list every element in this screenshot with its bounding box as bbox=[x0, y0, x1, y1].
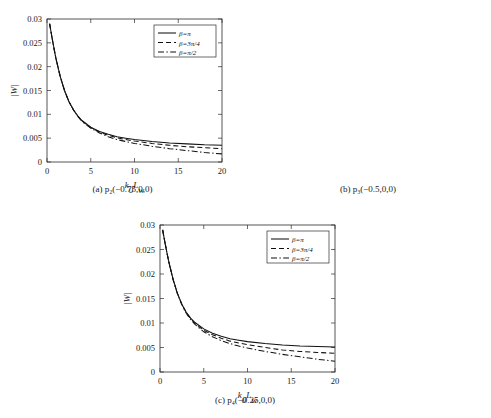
plot-area-b: 0510152000.0050.010.0150.020.0250.03|W|k… bbox=[245, 0, 491, 200]
plot-area-c: 0510152000.0050.010.0150.020.0250.03|W|k… bbox=[120, 205, 370, 418]
y-tick-label: 0.03 bbox=[27, 14, 42, 24]
y-axis-label: |W| bbox=[9, 84, 19, 96]
y-tick-label: 0.02 bbox=[140, 269, 155, 279]
x-tick-label: 20 bbox=[331, 376, 340, 386]
legend-label: β=π bbox=[291, 236, 304, 244]
subplot-panel-c: 0510152000.0050.010.0150.020.0250.03|W|k… bbox=[120, 205, 370, 418]
x-tick-label: 0 bbox=[158, 376, 162, 386]
x-tick-label: 15 bbox=[174, 166, 183, 176]
x-tick-label: 10 bbox=[243, 376, 252, 386]
x-tick-label: 5 bbox=[89, 166, 93, 176]
y-tick-label: 0.02 bbox=[27, 62, 42, 72]
legend-label: β=π bbox=[178, 30, 191, 38]
subplot-caption: (b) p₃(−0.5,0,0) bbox=[340, 184, 396, 194]
plot-area-a: 0510152000.0050.010.0150.020.0250.03|W|k… bbox=[0, 0, 245, 200]
legend-label: β=3π/4 bbox=[291, 246, 313, 254]
y-tick-label: 0.025 bbox=[23, 38, 42, 48]
y-tick-label: 0.005 bbox=[23, 133, 42, 143]
subplot-caption: (a) p₂(−0.75,0,0) bbox=[92, 184, 152, 194]
subplot-caption: (c) p₄(−0.25,0,0) bbox=[215, 395, 275, 405]
y-tick-label: 0 bbox=[151, 367, 155, 377]
y-tick-label: 0.025 bbox=[136, 245, 155, 255]
x-tick-label: 20 bbox=[218, 166, 227, 176]
y-tick-label: 0.03 bbox=[140, 220, 155, 230]
x-tick-label: 10 bbox=[130, 166, 139, 176]
y-tick-label: 0.015 bbox=[136, 294, 155, 304]
legend-label: β=π/2 bbox=[291, 255, 310, 263]
legend-label: β=π/2 bbox=[178, 49, 197, 57]
x-tick-label: 0 bbox=[45, 166, 49, 176]
legend-label: β=3π/4 bbox=[178, 40, 200, 48]
y-tick-label: 0.015 bbox=[23, 86, 42, 96]
subplot-panel-b: 0510152000.0050.010.0150.020.0250.03|W|k… bbox=[245, 0, 491, 200]
y-tick-label: 0.005 bbox=[136, 343, 155, 353]
x-tick-label: 5 bbox=[202, 376, 206, 386]
y-tick-label: 0 bbox=[38, 157, 42, 167]
y-tick-label: 0.01 bbox=[140, 318, 155, 328]
x-tick-label: 15 bbox=[287, 376, 296, 386]
y-axis-label: |W| bbox=[122, 292, 132, 304]
y-tick-label: 0.01 bbox=[27, 109, 42, 119]
subplot-panel-a: 0510152000.0050.010.0150.020.0250.03|W|k… bbox=[0, 0, 245, 200]
